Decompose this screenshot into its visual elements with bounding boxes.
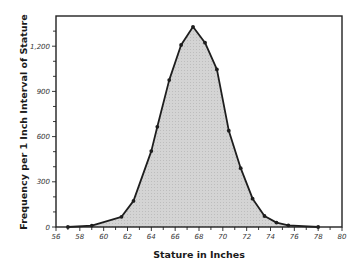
- data-point: [275, 221, 279, 225]
- data-point: [120, 215, 124, 219]
- data-point: [179, 43, 183, 47]
- x-tick-label: 80: [338, 233, 347, 241]
- x-tick-label: 62: [123, 233, 132, 241]
- x-tick-label: 78: [314, 233, 323, 241]
- chart: 56586062646668707274767880 03006009001,2…: [0, 0, 357, 268]
- x-tick-label: 70: [218, 233, 227, 241]
- y-tick-label: 1,200: [30, 43, 51, 51]
- data-point: [239, 166, 243, 170]
- data-point: [215, 68, 219, 72]
- data-point: [155, 125, 159, 129]
- x-tick-label: 58: [75, 233, 84, 241]
- x-tick-label: 74: [266, 233, 275, 241]
- data-point: [227, 129, 231, 133]
- x-tick-label: 76: [290, 233, 299, 241]
- x-tick-label: 60: [99, 233, 108, 241]
- x-tick-label: 64: [147, 233, 156, 241]
- data-point: [263, 214, 267, 218]
- data-point: [132, 199, 136, 203]
- x-tick-label: 56: [52, 233, 61, 241]
- y-tick-label: 600: [37, 133, 51, 141]
- x-tick-label: 68: [195, 233, 204, 241]
- data-point: [149, 149, 153, 153]
- x-axis-title: Stature in Inches: [153, 249, 245, 260]
- data-point: [203, 41, 207, 45]
- y-tick-label: 900: [37, 88, 51, 96]
- y-axis-title: Frequency per 1 Inch Interval of Stature: [18, 14, 29, 229]
- y-tick-label: 300: [37, 178, 51, 186]
- x-tick-label: 66: [171, 233, 180, 241]
- y-tick-label: 0: [46, 224, 51, 232]
- x-tick-label: 72: [242, 233, 251, 241]
- data-point: [167, 78, 171, 82]
- data-point: [191, 25, 195, 29]
- data-point: [251, 197, 255, 201]
